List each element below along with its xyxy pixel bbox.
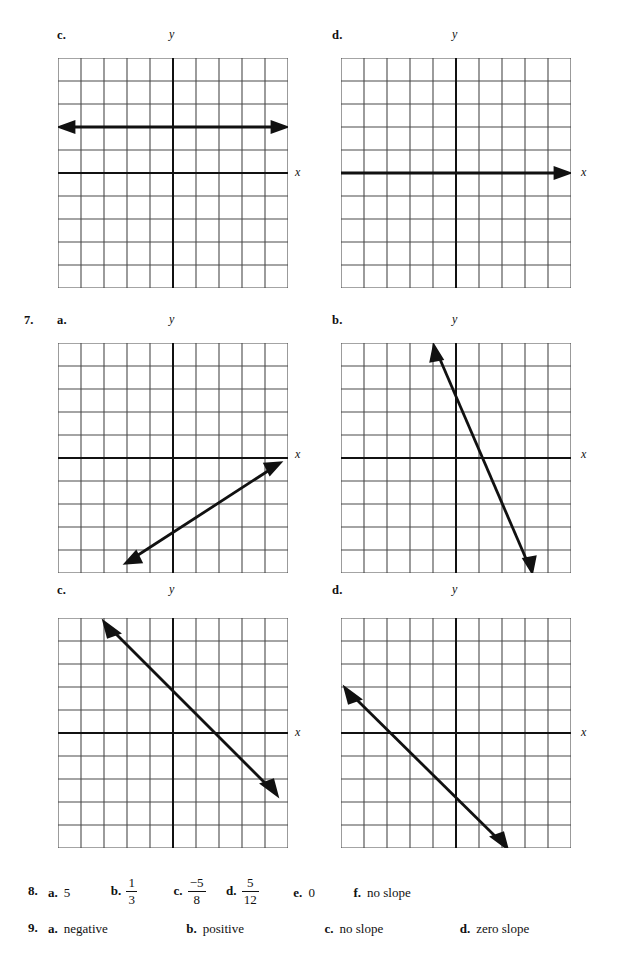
- answer-key: a.: [48, 921, 58, 936]
- x-axis-label: x: [581, 165, 586, 180]
- answer-value: negative: [64, 921, 108, 936]
- answer-item-8a: a.5: [48, 885, 70, 901]
- grid-svg: [341, 618, 571, 848]
- coordinate-grid-7c: [58, 618, 288, 848]
- graph-part-label: d.: [332, 583, 342, 598]
- textbook-answer-page: c. y x: [0, 0, 627, 970]
- answer-value: no slope: [367, 885, 411, 900]
- grid-svg: [341, 58, 571, 288]
- fraction-denominator: 12: [242, 893, 259, 907]
- answer-value: zero slope: [476, 921, 529, 936]
- answer-key: a.: [48, 885, 58, 900]
- graph-part-label: b.: [332, 313, 342, 328]
- x-axis-label: x: [295, 447, 300, 462]
- y-axis-label: y: [452, 582, 457, 597]
- answer-key: d.: [460, 921, 470, 936]
- answer-item-8b: b. 1 3: [111, 877, 139, 908]
- answer-key: b.: [186, 921, 196, 936]
- graph-part-label: d.: [332, 28, 342, 43]
- x-axis-label: x: [581, 725, 586, 740]
- answer-item-9a: a.negative: [48, 921, 108, 937]
- graph-part-label: c.: [57, 28, 66, 43]
- answer-item-8e: e.0: [293, 885, 315, 901]
- answer-value: 0: [308, 885, 315, 900]
- fraction-numerator: 5: [242, 876, 259, 889]
- fraction-denominator: 3: [126, 893, 137, 907]
- answer-item-9d: d.zero slope: [460, 921, 530, 937]
- answer-key: d.: [226, 883, 236, 898]
- y-axis-label: y: [452, 312, 457, 327]
- coordinate-grid-7d: [341, 618, 571, 848]
- answer-key: c.: [324, 921, 333, 936]
- graph-part-label: a.: [57, 313, 67, 328]
- x-axis-label: x: [295, 165, 300, 180]
- answer-item-9c: c.no slope: [324, 921, 383, 937]
- x-axis-label: x: [295, 725, 300, 740]
- answer-item-8d: d. 5 12: [226, 877, 261, 908]
- answer-value: positive: [203, 921, 244, 936]
- answer-number: 9.: [28, 920, 38, 935]
- grid-svg: [341, 343, 571, 573]
- answer-value: 5: [64, 885, 71, 900]
- coordinate-grid-7a: [58, 343, 288, 573]
- answer-value: no slope: [339, 921, 383, 936]
- answer-line-9: 9. a.negative b.positive c.no slope d.ze…: [28, 920, 529, 937]
- y-axis-label: y: [169, 582, 174, 597]
- y-axis-label: y: [169, 27, 174, 42]
- answer-key: c.: [173, 883, 182, 898]
- fraction-one-third: 1 3: [126, 876, 137, 907]
- answer-item-8c: c. −5 8: [173, 877, 207, 908]
- fraction-five-twelfths: 5 12: [242, 876, 259, 907]
- coordinate-grid-7b: [341, 343, 571, 573]
- fraction-numerator: −5: [188, 876, 206, 889]
- coordinate-grid-6d: [341, 58, 571, 288]
- grid-svg: [58, 618, 288, 848]
- graph-part-label: c.: [57, 583, 66, 598]
- fraction-denominator: 8: [188, 893, 206, 907]
- answer-key: b.: [111, 883, 121, 898]
- answer-item-9b: b.positive: [186, 921, 244, 937]
- fraction-numerator: 1: [126, 876, 137, 889]
- y-axis-label: y: [169, 312, 174, 327]
- grid-svg: [58, 343, 288, 573]
- answer-key: f.: [353, 885, 361, 900]
- fraction-negative-five-eighths: −5 8: [188, 876, 206, 907]
- x-axis-label: x: [581, 447, 586, 462]
- problem-number-7: 7.: [24, 313, 33, 328]
- answer-item-8f: f.no slope: [353, 885, 410, 901]
- answer-key: e.: [293, 885, 302, 900]
- grid-svg: [58, 58, 288, 288]
- y-axis-label: y: [452, 27, 457, 42]
- coordinate-grid-6c: [58, 58, 288, 288]
- answer-line-8: 8. a.5 b. 1 3 c. −5 8: [28, 877, 411, 908]
- answer-number: 8.: [28, 883, 38, 898]
